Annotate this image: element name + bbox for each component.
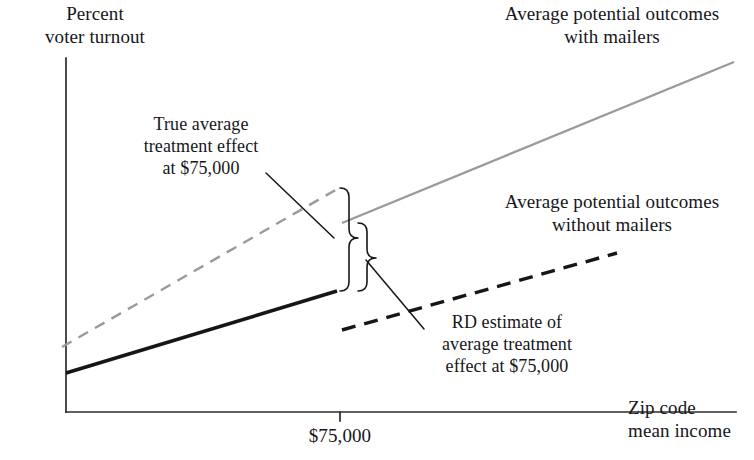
rd-figure: Percent voter turnout Zip code mean inco… <box>0 0 754 460</box>
rd-ate-annotation: RD estimate of average treatment effect … <box>398 312 616 378</box>
without-mailers-annotation: Average potential outcomes without maile… <box>470 190 754 236</box>
y-axis-label: Percent voter turnout <box>10 2 180 48</box>
effect-brace-0 <box>340 188 358 291</box>
effect-brace-1 <box>358 223 376 291</box>
true-ate-leader <box>266 173 334 238</box>
x-axis-cutoff-label: $75,000 <box>272 424 408 447</box>
true-ate-annotation: True average treatment effect at $75,000 <box>110 114 292 180</box>
x-axis-label: Zip code mean income <box>628 396 754 442</box>
series-line-2 <box>66 291 337 373</box>
series-line-0 <box>62 188 339 347</box>
effect-brace-group <box>340 188 376 291</box>
with-mailers-annotation: Average potential outcomes with mailers <box>470 2 754 48</box>
